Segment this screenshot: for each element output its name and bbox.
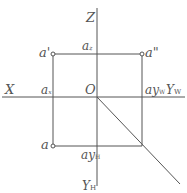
ax-label: ax <box>41 83 52 97</box>
origin-label: O <box>85 82 96 97</box>
projection-diagram: Z X O YW YH a' a" a az ax ayW ayH <box>0 0 187 193</box>
a-prime-label: a' <box>39 45 50 60</box>
point-a-double-prime <box>140 52 144 56</box>
z-axis-label: Z <box>85 10 96 25</box>
point-a-prime <box>51 52 55 56</box>
ayw-label: ayW <box>145 83 166 97</box>
x-axis-label: X <box>4 82 15 97</box>
yh-axis-label: YH <box>82 179 96 193</box>
point-a <box>51 144 55 148</box>
a-double-prime-label: a" <box>145 45 159 60</box>
45-degree-line <box>97 97 180 184</box>
yw-axis-label: YW <box>166 83 182 97</box>
a-label: a <box>41 137 49 152</box>
az-label: az <box>82 39 93 53</box>
